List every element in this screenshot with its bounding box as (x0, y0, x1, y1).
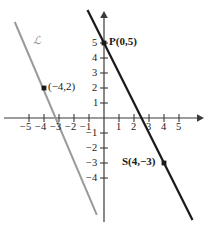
point-label-neg4-2: (−4,2) (48, 81, 75, 92)
x-tick-label-3: 3 (146, 122, 151, 133)
y-axis-arrow-icon (100, 11, 108, 18)
x-tick-label-neg4: −4 (35, 122, 46, 133)
x-tick-label-neg5: −5 (20, 122, 31, 133)
coordinate-plane-figure: −5 −4 −3 −2 −1 1 2 3 4 5 5 4 3 2 1 −1 −2… (0, 0, 210, 228)
x-tick-label-neg2: −2 (65, 122, 76, 133)
x-axis-arrow-icon (197, 114, 204, 122)
x-tick-label-2: 2 (131, 122, 136, 133)
graph-canvas (0, 0, 210, 228)
y-tick-label-3: 3 (92, 68, 97, 79)
y-tick-label-neg3: −3 (86, 158, 97, 169)
x-tick-label-4: 4 (161, 122, 166, 133)
y-tick-label-neg1: −1 (86, 128, 97, 139)
point-label-p: P(0,5) (109, 36, 137, 47)
y-tick-label-2: 2 (92, 83, 97, 94)
x-tick-label-1: 1 (116, 122, 121, 133)
y-tick-label-neg4: −4 (86, 173, 97, 184)
point-marker-neg4-2 (42, 86, 47, 91)
point-marker-s (162, 161, 167, 166)
line-label-script-l: ℒ (33, 35, 41, 46)
y-tick-label-5: 5 (92, 38, 97, 49)
y-tick-label-neg2: −2 (86, 143, 97, 154)
y-tick-label-1: 1 (93, 98, 98, 109)
point-marker-p (102, 41, 107, 46)
y-tick-label-4: 4 (92, 53, 97, 64)
x-tick-label-neg3: −3 (50, 122, 61, 133)
point-label-s: S(4,−3) (122, 156, 155, 167)
x-tick-label-5: 5 (176, 122, 181, 133)
